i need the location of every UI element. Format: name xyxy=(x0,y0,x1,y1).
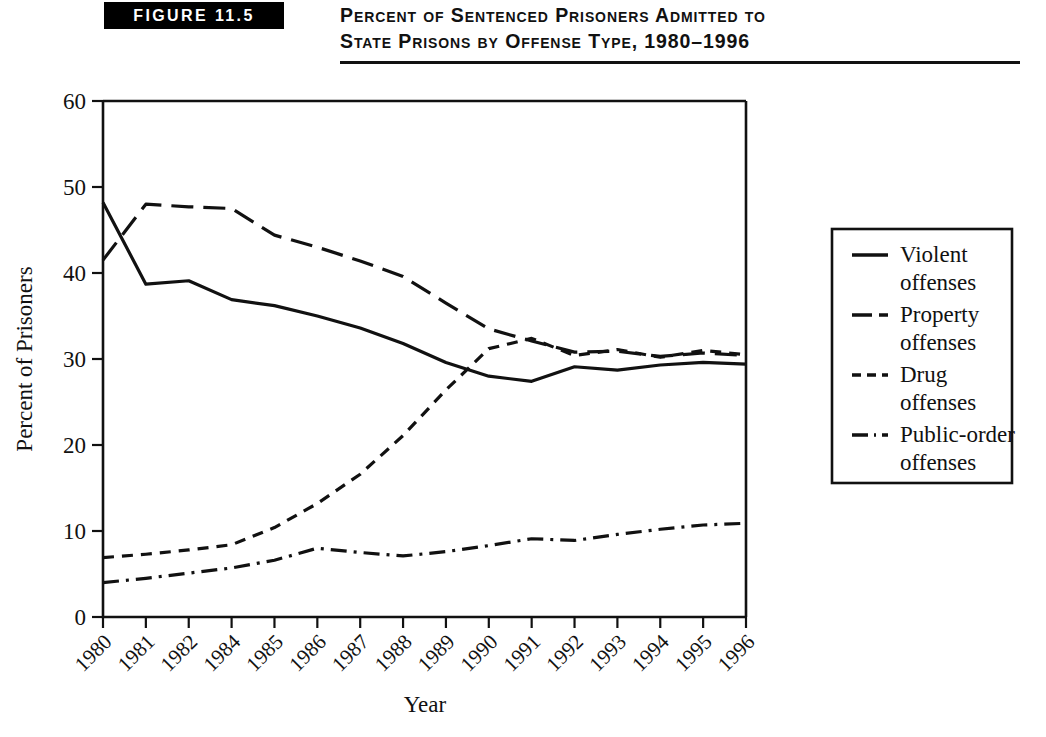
legend-label-primary: Public-order xyxy=(900,422,1015,447)
figure-title: Percent of Sentenced Prisoners Admitted … xyxy=(340,2,1030,54)
title-divider xyxy=(340,61,1020,64)
x-axis-tick-label: 1986 xyxy=(284,630,331,677)
x-axis-tick-label: 1984 xyxy=(198,629,245,676)
y-axis-ticks: 0102030405060 xyxy=(63,89,103,630)
figure-header: FIGURE 11.5 Percent of Sentenced Prisone… xyxy=(0,0,1046,70)
legend-label-primary: Drug xyxy=(900,362,948,387)
y-axis-tick-label: 0 xyxy=(75,605,87,630)
series-line xyxy=(103,523,746,582)
figure-number-badge: FIGURE 11.5 xyxy=(104,2,284,29)
series-line xyxy=(103,204,746,356)
x-axis-tick-label: 1994 xyxy=(627,629,674,676)
series-line xyxy=(103,338,746,557)
x-axis-tick-label: 1990 xyxy=(456,630,503,677)
legend-label-primary: Violent xyxy=(900,242,968,267)
y-axis-tick-label: 50 xyxy=(63,175,86,200)
legend-label-secondary: offenses xyxy=(900,390,976,415)
figure-title-line-1: Percent of Sentenced Prisoners Admitted … xyxy=(340,2,1030,28)
x-axis-tick-label: 1981 xyxy=(113,630,160,677)
x-axis-tick-label: 1993 xyxy=(584,630,631,677)
axes-group: 0102030405060 19801981198219841985198619… xyxy=(63,89,760,676)
x-axis-tick-label: 1982 xyxy=(156,630,203,677)
y-axis-tick-label: 10 xyxy=(63,519,86,544)
chart-canvas: 0102030405060 19801981198219841985198619… xyxy=(0,70,1046,737)
x-axis-ticks: 1980198119821984198519861987198819891990… xyxy=(70,617,760,676)
x-axis-tick-label: 1992 xyxy=(541,630,588,677)
x-axis-tick-label: 1980 xyxy=(70,630,117,677)
x-axis-tick-label: 1996 xyxy=(713,630,760,677)
x-axis-tick-label: 1989 xyxy=(413,630,460,677)
y-axis-tick-label: 60 xyxy=(63,89,86,114)
x-axis-tick-label: 1985 xyxy=(241,630,288,677)
y-axis-tick-label: 20 xyxy=(63,433,86,458)
axis-frame xyxy=(103,101,746,617)
data-series-group xyxy=(103,202,746,582)
chart-legend: ViolentoffensesPropertyoffensesDrugoffen… xyxy=(832,229,1015,483)
figure-title-line-2: State Prisons by Offense Type, 1980–1996 xyxy=(340,28,1030,54)
legend-label-primary: Property xyxy=(900,302,980,327)
y-axis-tick-label: 40 xyxy=(63,261,86,286)
x-axis-tick-label: 1987 xyxy=(327,630,374,677)
x-axis-tick-label: 1995 xyxy=(670,630,717,677)
series-line xyxy=(103,202,746,381)
y-axis-tick-label: 30 xyxy=(63,347,86,372)
x-axis-tick-label: 1988 xyxy=(370,630,417,677)
y-axis-title: Percent of Prisoners xyxy=(12,266,37,451)
line-chart: 0102030405060 19801981198219841985198619… xyxy=(0,70,1046,737)
x-axis-title: Year xyxy=(404,692,447,717)
legend-label-secondary: offenses xyxy=(900,330,976,355)
legend-label-secondary: offenses xyxy=(900,270,976,295)
legend-label-secondary: offenses xyxy=(900,450,976,475)
x-axis-tick-label: 1991 xyxy=(499,630,546,677)
